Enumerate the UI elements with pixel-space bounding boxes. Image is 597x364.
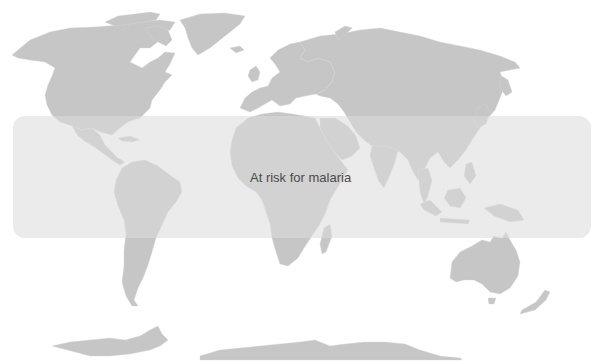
new-zealand	[520, 290, 550, 314]
antarctica-west	[52, 326, 168, 356]
tasmania	[488, 298, 496, 304]
iceland	[230, 46, 244, 53]
british-isles	[248, 66, 260, 82]
antarctica-east	[200, 340, 462, 360]
malaria-risk-label: At risk for malaria	[250, 170, 351, 185]
australia	[450, 232, 520, 294]
